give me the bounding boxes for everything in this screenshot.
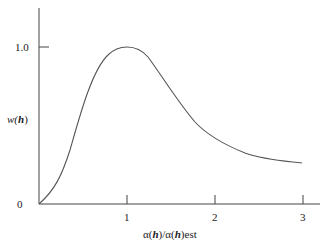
x-tick-label-2: 2 — [212, 212, 218, 223]
y-tick-label-1: 1.0 — [15, 42, 29, 53]
x-axis-label: α(h)/α(h)est — [143, 229, 197, 240]
plot-area — [0, 0, 327, 248]
x-label-part3: )est — [181, 228, 197, 240]
y-tick-label-0: 0 — [17, 199, 23, 210]
x-tick-label-1: 1 — [124, 212, 130, 223]
x-tick-label-3: 3 — [300, 212, 306, 223]
y-label-close: ) — [24, 113, 28, 125]
curve-w-h — [39, 47, 302, 204]
y-axis-label: w(h) — [7, 114, 28, 125]
y-label-fn: w( — [7, 113, 18, 125]
x-label-part2: )/α( — [159, 228, 175, 240]
